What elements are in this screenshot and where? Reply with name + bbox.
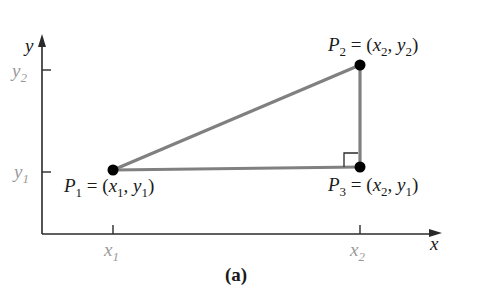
- y-axis-label: y: [23, 35, 34, 56]
- y-tick-y1-name: y: [12, 161, 23, 182]
- svg-text:x2: x2: [349, 239, 365, 264]
- x-tick-x1-sub: 1: [112, 249, 119, 264]
- label-p3: P3 = (x2, y1): [327, 174, 418, 199]
- hypotenuse-p1-p2: [113, 65, 360, 170]
- x-tick-x2: x2: [349, 225, 365, 264]
- point-p2: [355, 60, 366, 71]
- x-axis-label: x: [429, 233, 439, 254]
- side-p1-p3: [113, 167, 360, 170]
- triangle: [113, 65, 360, 170]
- y-tick-y2: y2: [10, 60, 51, 85]
- y-axis: y: [23, 34, 46, 234]
- x-tick-x2-sub: 2: [358, 249, 365, 264]
- svg-text:y2: y2: [10, 60, 27, 85]
- point-p3: [355, 162, 366, 173]
- right-triangle-diagram: y x y2 y1 x1: [0, 0, 490, 304]
- y-tick-y2-sub: 2: [20, 70, 27, 85]
- label-p2: P2 = (x2, y2): [327, 34, 418, 59]
- point-p1: [108, 165, 119, 176]
- svg-text:y1: y1: [12, 161, 29, 186]
- y-tick-y2-name: y: [10, 60, 21, 81]
- figure-caption: (a): [225, 264, 247, 286]
- x-tick-x1: x1: [103, 225, 119, 264]
- label-p1: P1 = (x1, y1): [63, 175, 154, 200]
- y-axis-arrow-icon: [38, 34, 46, 47]
- y-tick-y1-sub: 1: [22, 171, 29, 186]
- y-tick-y1: y1: [12, 161, 51, 186]
- svg-text:x1: x1: [103, 239, 119, 264]
- x-axis: x: [42, 229, 442, 254]
